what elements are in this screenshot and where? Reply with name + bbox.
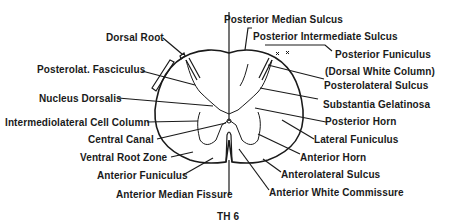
label-intermediolateral-cell-column: Intermediolateral Cell Column: [5, 117, 150, 128]
label-posterolateral-sulcus: Posterolateral Sulcus: [324, 80, 428, 91]
label-nucleus-dorsalis: Nucleus Dorsalis: [39, 93, 122, 104]
label-posterior-funiculus: Posterior Funiculus: [335, 49, 431, 60]
label-anterior-funiculus: Anterior Funiculus: [97, 170, 188, 181]
label-ventral-root-zone: Ventral Root Zone: [80, 152, 167, 163]
label-anterior-white-commissure: Anterior White Commissure: [269, 187, 404, 198]
label-dorsal-white-column: (Dorsal White Column): [325, 66, 435, 77]
label-posterior-intermediate-sulcus: Posterior Intermediate Sulcus: [253, 31, 398, 42]
label-anterior-horn: Anterior Horn: [300, 152, 366, 163]
label-dorsal-root: Dorsal Root: [106, 32, 164, 43]
label-anterior-median-fissure: Anterior Median Fissure: [116, 189, 233, 200]
label-posterior-horn: Posterior Horn: [325, 116, 396, 127]
label-central-canal: Central Canal: [88, 134, 154, 145]
label-substantia-gelatinosa: Substantia Gelatinosa: [323, 99, 430, 110]
label-anterolateral-sulcus: Anterolateral Sulcus: [281, 169, 380, 180]
label-posterior-median-sulcus: Posterior Median Sulcus: [224, 14, 343, 25]
label-lateral-funiculus: Lateral Funiculus: [314, 134, 399, 145]
caption-th6: TH 6: [217, 211, 239, 222]
label-posterolat-fasciculus: Posterolat. Fasciculus: [37, 64, 145, 75]
spinal-cord-diagram: Dorsal Root Posterolat. Fasciculus Nucle…: [0, 0, 456, 223]
